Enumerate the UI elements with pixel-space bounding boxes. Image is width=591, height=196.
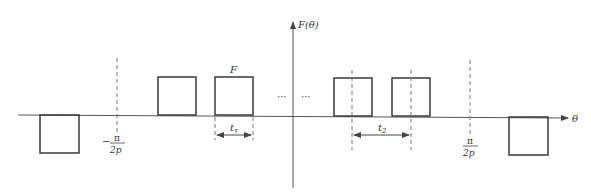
t2-label: t2 xyxy=(378,122,387,135)
right-marker-denominator: 2p xyxy=(462,148,475,158)
tau-label-sub: τ xyxy=(234,127,238,135)
right-marker-numerator: π xyxy=(467,136,473,146)
left-marker-numerator: π xyxy=(114,133,120,143)
t2-label-sub: 2 xyxy=(381,127,387,135)
pulse-positive-left-1 xyxy=(215,77,253,115)
pulse-positive-right-2 xyxy=(392,78,430,116)
x-axis-label: θ xyxy=(572,113,578,124)
pulse-negative-right xyxy=(509,117,548,155)
left-marker-denominator: 2p xyxy=(109,145,122,155)
pulse-positive-left-2 xyxy=(158,77,196,115)
tau-label: tτ xyxy=(230,122,238,135)
pulse-diagram: F(θ) θ F tτ t2 − π 2p π 2p ··· ··· xyxy=(0,0,591,196)
ellipsis-right: ··· xyxy=(301,91,311,102)
amplitude-label: F xyxy=(229,64,238,75)
ellipsis-left: ··· xyxy=(277,91,287,102)
pulse-negative-left xyxy=(40,115,79,153)
pulse-positive-right-1 xyxy=(334,78,372,116)
y-axis-label: F(θ) xyxy=(297,19,319,30)
